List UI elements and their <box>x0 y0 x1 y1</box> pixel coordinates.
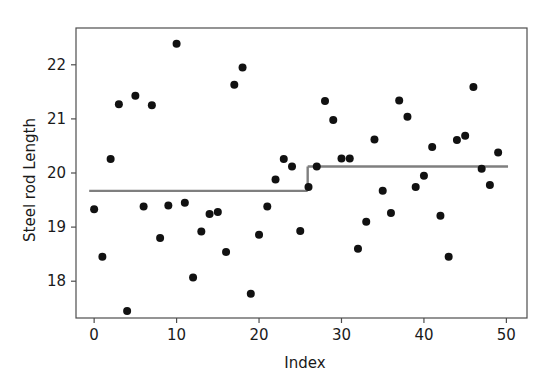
data-point <box>164 201 172 209</box>
data-point <box>140 203 148 211</box>
y-tick-label: 19 <box>47 218 66 236</box>
data-point <box>263 203 271 211</box>
y-tick-label: 22 <box>47 56 66 74</box>
x-tick-label: 10 <box>167 326 186 344</box>
data-point <box>131 92 139 100</box>
data-point <box>436 212 444 220</box>
data-point <box>206 210 214 218</box>
y-tick-label: 20 <box>47 164 66 182</box>
data-point <box>494 148 502 156</box>
data-point <box>370 135 378 143</box>
data-point <box>148 101 156 109</box>
data-point <box>313 163 321 171</box>
scatter-plot: 01020304050 1819202122 Index Steel rod L… <box>0 0 559 379</box>
data-point <box>272 175 280 183</box>
data-point <box>337 154 345 162</box>
data-point <box>90 205 98 213</box>
data-point <box>379 187 387 195</box>
data-point <box>189 273 197 281</box>
x-tick-label: 0 <box>89 326 99 344</box>
data-point <box>230 81 238 89</box>
data-point <box>247 290 255 298</box>
data-point <box>403 113 411 121</box>
data-point <box>181 199 189 207</box>
data-point <box>123 307 131 315</box>
data-point <box>461 132 469 140</box>
data-point <box>354 245 362 253</box>
chart-figure: 01020304050 1819202122 Index Steel rod L… <box>0 0 559 379</box>
data-point <box>469 83 477 91</box>
figure-background <box>0 0 559 379</box>
x-axis-title: Index <box>284 354 325 372</box>
data-point <box>486 181 494 189</box>
y-axis-title: Steel rod Length <box>21 118 39 242</box>
x-tick-label: 30 <box>332 326 351 344</box>
data-point <box>115 100 123 108</box>
data-point <box>395 97 403 105</box>
data-point <box>428 143 436 151</box>
data-point <box>305 183 313 191</box>
data-point <box>478 165 486 173</box>
data-point <box>346 154 354 162</box>
data-point <box>420 172 428 180</box>
data-point <box>296 227 304 235</box>
x-tick-label: 40 <box>414 326 433 344</box>
data-point <box>255 231 263 239</box>
data-point <box>445 253 453 261</box>
data-point <box>222 248 230 256</box>
data-point <box>173 40 181 48</box>
data-point <box>214 208 222 216</box>
data-point <box>329 116 337 124</box>
data-point <box>197 227 205 235</box>
data-point <box>387 209 395 217</box>
data-point <box>280 155 288 163</box>
data-point <box>98 253 106 261</box>
data-point <box>156 234 164 242</box>
data-point <box>239 63 247 71</box>
y-tick-label: 18 <box>47 272 66 290</box>
data-point <box>288 163 296 171</box>
data-point <box>321 97 329 105</box>
x-tick-label: 50 <box>497 326 516 344</box>
x-tick-label: 20 <box>249 326 268 344</box>
data-point <box>412 183 420 191</box>
data-point <box>107 155 115 163</box>
y-tick-label: 21 <box>47 110 66 128</box>
data-point <box>453 136 461 144</box>
data-point <box>362 218 370 226</box>
